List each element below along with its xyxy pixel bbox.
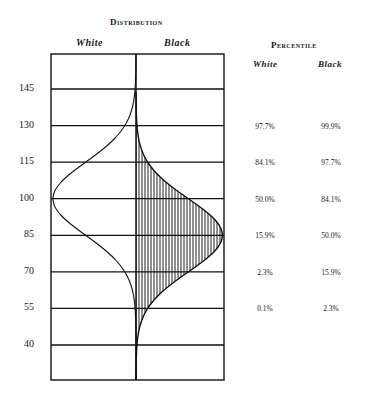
percentile-white-value: 2.3% xyxy=(245,268,285,277)
percentile-white-value: 84.1% xyxy=(245,158,285,167)
white-distribution-curve xyxy=(53,54,136,380)
percentile-black-value: 97.7% xyxy=(311,158,351,167)
percentile-black-value: 50.0% xyxy=(311,231,351,240)
y-tick-label: 115 xyxy=(4,155,34,166)
y-tick-label: 100 xyxy=(4,192,34,203)
percentile-white-value: 0.1% xyxy=(245,304,285,313)
percentile-white-value: 97.7% xyxy=(245,122,285,131)
percentile-white-value: 50.0% xyxy=(245,195,285,204)
percentile-black-value: 2.3% xyxy=(311,304,351,313)
y-tick-label: 70 xyxy=(4,265,34,276)
y-tick-label: 85 xyxy=(4,228,34,239)
y-tick-label: 145 xyxy=(4,82,34,93)
percentile-white-value: 15.9% xyxy=(245,231,285,240)
black-distribution-area xyxy=(136,92,222,380)
percentile-black-value: 99.9% xyxy=(311,122,351,131)
y-tick-label: 55 xyxy=(4,301,34,312)
y-tick-label: 130 xyxy=(4,119,34,130)
percentile-black-value: 15.9% xyxy=(311,268,351,277)
percentile-black-value: 84.1% xyxy=(311,195,351,204)
y-tick-label: 40 xyxy=(4,338,34,349)
